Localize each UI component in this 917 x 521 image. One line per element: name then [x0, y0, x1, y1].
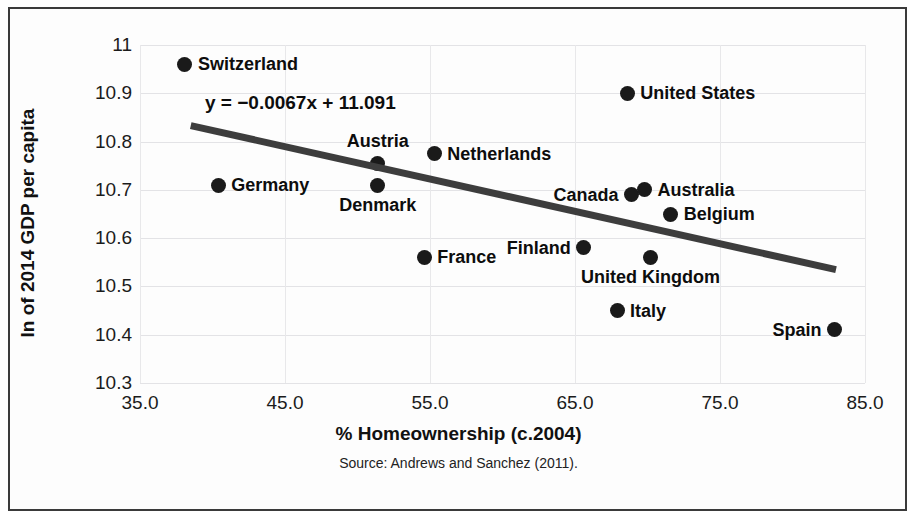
gridline-vertical — [865, 45, 866, 383]
gridline-vertical — [430, 45, 431, 383]
gridline-vertical — [575, 45, 576, 383]
chart-figure: SwitzerlandGermanyDenmarkAustriaNetherla… — [0, 0, 917, 521]
data-point-label: Canada — [554, 184, 619, 205]
data-point-label: Belgium — [684, 204, 755, 225]
data-point — [576, 240, 591, 255]
y-tick-label: 11 — [46, 34, 132, 56]
data-point — [427, 146, 442, 161]
y-tick-label: 10.8 — [46, 131, 132, 153]
x-tick-label: 45.0 — [267, 392, 304, 414]
data-point — [417, 250, 432, 265]
source-note: Source: Andrews and Sanchez (2011). — [0, 455, 917, 471]
data-point — [211, 178, 226, 193]
y-tick-label: 10.5 — [46, 275, 132, 297]
gridline-horizontal — [140, 45, 865, 46]
data-point-label: Australia — [658, 179, 735, 200]
gridline-horizontal — [140, 335, 865, 336]
data-point-label: Netherlands — [447, 143, 551, 164]
gridline-vertical — [140, 45, 141, 383]
gridline-horizontal — [140, 286, 865, 287]
x-tick-label: 85.0 — [847, 392, 884, 414]
trendline-equation: y = −0.0067x + 11.091 — [205, 92, 396, 114]
data-point-label: France — [437, 247, 496, 268]
data-point — [663, 207, 678, 222]
y-tick-label: 10.6 — [46, 227, 132, 249]
y-axis-ticks: 10.310.410.510.610.710.810.911 — [32, 45, 132, 383]
data-point-label: Italy — [630, 300, 666, 321]
data-point-label: Switzerland — [198, 54, 298, 75]
data-point — [637, 182, 652, 197]
data-point-label: Spain — [773, 319, 822, 340]
data-point-label: United Kingdom — [581, 267, 720, 288]
x-tick-label: 65.0 — [557, 392, 594, 414]
x-tick-label: 75.0 — [702, 392, 739, 414]
x-tick-label: 55.0 — [412, 392, 449, 414]
gridline-horizontal — [140, 383, 865, 384]
y-tick-label: 10.9 — [46, 82, 132, 104]
data-point — [610, 303, 625, 318]
data-point-label: Germany — [231, 175, 309, 196]
data-point — [370, 178, 385, 193]
data-point-label: United States — [640, 83, 755, 104]
data-point — [643, 250, 658, 265]
data-point-label: Finland — [507, 237, 571, 258]
y-tick-label: 10.4 — [46, 324, 132, 346]
y-axis-title: ln of 2014 GDP per capita — [17, 73, 39, 373]
data-point — [370, 156, 385, 171]
data-point-label: Austria — [347, 131, 409, 152]
data-point — [177, 57, 192, 72]
x-tick-label: 35.0 — [122, 392, 159, 414]
gridline-horizontal — [140, 238, 865, 239]
data-point-label: Denmark — [339, 195, 416, 216]
data-point — [620, 86, 635, 101]
x-axis-title: % Homeownership (c.2004) — [0, 423, 917, 445]
y-tick-label: 10.3 — [46, 372, 132, 394]
x-axis-ticks: 35.045.055.065.075.085.0 — [140, 392, 865, 418]
y-tick-label: 10.7 — [46, 179, 132, 201]
